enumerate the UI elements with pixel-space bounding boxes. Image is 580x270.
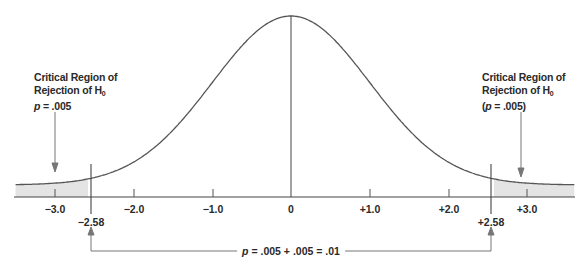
critical-value-left: −2.58 [78, 216, 105, 228]
left-label-line2: Rejection of H0 [34, 84, 117, 100]
left-label-line3: p = .005 [34, 100, 117, 113]
total-probability-label: p = .005 + .005 = .01 [237, 245, 345, 257]
right-label-line3: (p = .005) [482, 100, 565, 113]
right-critical-region-label: Critical Region of Rejection of H0 (p = … [482, 71, 565, 113]
tick-label-minus-2: −2.0 [124, 203, 145, 215]
tick-label-plus-1: +1.0 [360, 203, 381, 215]
left-label-line1: Critical Region of [34, 71, 117, 84]
critical-value-right: +2.58 [478, 216, 505, 228]
normal-distribution-diagram [0, 0, 580, 270]
tick-label-minus-3: −3.0 [45, 203, 66, 215]
tick-label-plus-3: +3.0 [517, 203, 538, 215]
right-label-line2: Rejection of H0 [482, 84, 565, 100]
right-label-line1: Critical Region of [482, 71, 565, 84]
right-critical-region-shade [494, 179, 574, 197]
tick-label-minus-1: −1.0 [203, 203, 224, 215]
tick-label-zero: 0 [288, 203, 294, 215]
left-critical-region-label: Critical Region of Rejection of H0 p = .… [34, 71, 117, 113]
tick-label-plus-2: +2.0 [439, 203, 460, 215]
left-critical-region-shade [16, 179, 88, 197]
